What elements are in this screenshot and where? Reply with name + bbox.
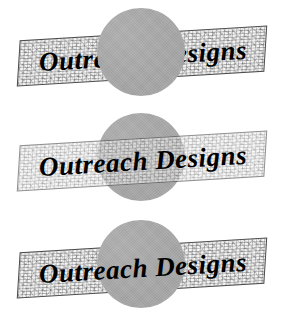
banner-text-2: Outreach Designs bbox=[17, 131, 267, 192]
gray-circle-3 bbox=[97, 220, 185, 308]
banner-2: Outreach Designs bbox=[17, 131, 267, 192]
layering-sample-2: Outreach Designs bbox=[0, 105, 289, 212]
gray-circle-1 bbox=[97, 8, 185, 96]
layering-sample-3: Outreach Designs bbox=[0, 212, 289, 319]
layering-sample-1: Outreach Designs bbox=[0, 0, 289, 107]
